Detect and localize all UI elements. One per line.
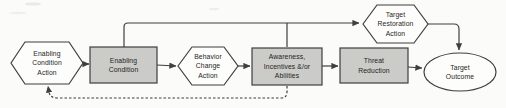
diagram-canvas xyxy=(0,0,506,108)
hexagon-target-restoration-action xyxy=(363,5,428,43)
rect-awareness-incentives-abilities xyxy=(252,48,322,85)
connector-awareness-feedback-to-enabling-action xyxy=(48,86,287,98)
connector-enabling-condition-to-behavior-change xyxy=(157,65,176,66)
rect-threat-reduction xyxy=(340,48,408,83)
connector-target-restoration-to-target-outcome xyxy=(428,24,459,50)
scan-noise xyxy=(25,2,41,5)
hexagon-behavior-change-action xyxy=(178,47,238,85)
hexagon-enabling-condition-action xyxy=(11,42,83,84)
rect-enabling-condition xyxy=(90,47,157,83)
scan-noise xyxy=(9,12,27,14)
scan-noise xyxy=(209,8,219,10)
ellipse-target-outcome xyxy=(424,53,496,91)
connector-threat-reduction-to-target-outcome xyxy=(408,67,422,68)
connector-enabling-condition-to-target-restoration xyxy=(124,23,359,47)
results-chain-diagram: Enabling Condition Action Enabling Condi… xyxy=(0,0,506,108)
